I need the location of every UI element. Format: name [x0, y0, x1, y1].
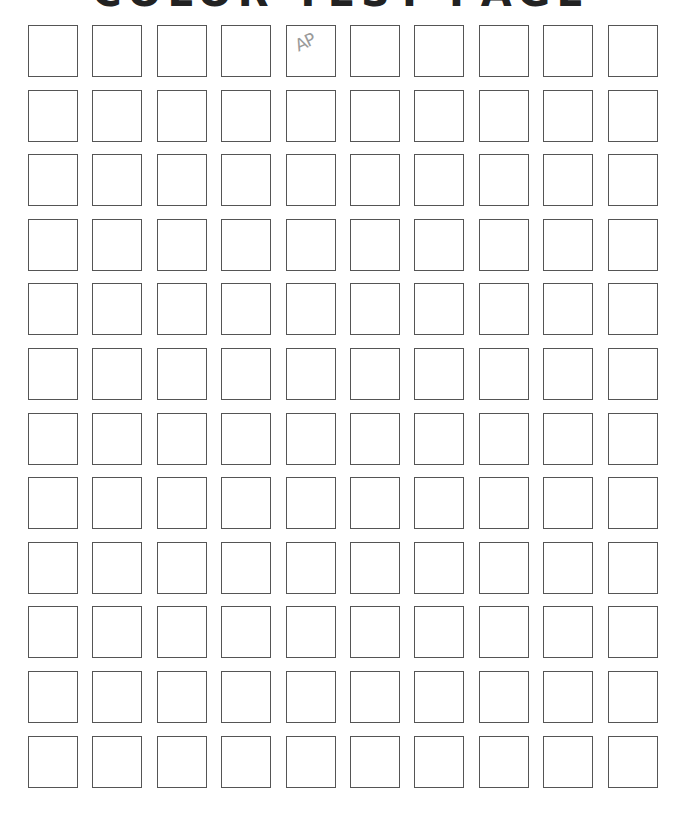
color-swatch-box: [28, 477, 78, 529]
color-swatch-box: [414, 413, 464, 465]
color-swatch-box: [543, 25, 593, 77]
color-swatch-box: [479, 219, 529, 271]
color-swatch-box: [92, 283, 142, 335]
color-swatch-box: [221, 736, 271, 788]
color-swatch-box: [92, 219, 142, 271]
color-swatch-box: AP: [286, 25, 336, 77]
color-swatch-box: [608, 348, 658, 400]
color-swatch-box: [414, 542, 464, 594]
color-swatch-box: [92, 477, 142, 529]
color-swatch-box: [350, 283, 400, 335]
color-swatch-box: [92, 606, 142, 658]
color-swatch-box: [221, 413, 271, 465]
color-swatch-box: [543, 283, 593, 335]
color-swatch-box: [221, 219, 271, 271]
color-swatch-box: [286, 542, 336, 594]
color-swatch-box: [479, 413, 529, 465]
color-swatch-box: [221, 25, 271, 77]
color-swatch-box: [543, 606, 593, 658]
color-swatch-box: [350, 25, 400, 77]
color-swatch-box: [608, 90, 658, 142]
color-swatch-box: [157, 219, 207, 271]
color-swatch-box: [350, 606, 400, 658]
color-swatch-box: [543, 219, 593, 271]
color-swatch-box: [28, 348, 78, 400]
color-swatch-box: [157, 606, 207, 658]
color-swatch-box: [28, 671, 78, 723]
color-swatch-box: [286, 283, 336, 335]
color-swatch-box: [28, 413, 78, 465]
color-swatch-box: [414, 25, 464, 77]
color-swatch-box: [221, 283, 271, 335]
color-swatch-box: [92, 671, 142, 723]
color-swatch-box: [543, 542, 593, 594]
color-swatch-box: [543, 477, 593, 529]
color-swatch-box: [157, 413, 207, 465]
color-swatch-box: [286, 413, 336, 465]
color-swatch-box: [608, 606, 658, 658]
color-swatch-box: [543, 413, 593, 465]
color-swatch-box: [92, 154, 142, 206]
color-swatch-box: [608, 736, 658, 788]
color-swatch-box: [221, 671, 271, 723]
color-swatch-box: [414, 348, 464, 400]
color-swatch-box: [350, 348, 400, 400]
swatch-grid: AP: [0, 0, 682, 819]
color-swatch-box: [28, 219, 78, 271]
color-swatch-box: [608, 477, 658, 529]
color-swatch-box: [157, 542, 207, 594]
color-swatch-box: [414, 283, 464, 335]
color-swatch-box: [92, 90, 142, 142]
color-swatch-box: [157, 671, 207, 723]
color-swatch-box: [543, 671, 593, 723]
color-swatch-box: [543, 90, 593, 142]
color-swatch-box: [608, 413, 658, 465]
color-swatch-box: [350, 542, 400, 594]
color-swatch-box: [479, 671, 529, 723]
color-swatch-box: [92, 413, 142, 465]
color-swatch-box: [479, 25, 529, 77]
color-swatch-box: [157, 283, 207, 335]
color-swatch-box: [157, 90, 207, 142]
color-swatch-box: [286, 90, 336, 142]
color-swatch-box: [414, 736, 464, 788]
color-swatch-box: [479, 542, 529, 594]
color-swatch-box: [350, 413, 400, 465]
color-swatch-box: [286, 606, 336, 658]
color-swatch-box: [350, 154, 400, 206]
color-swatch-box: [608, 542, 658, 594]
color-swatch-box: [28, 90, 78, 142]
color-swatch-box: [221, 542, 271, 594]
color-swatch-box: [157, 736, 207, 788]
color-swatch-box: [157, 348, 207, 400]
color-swatch-box: [28, 606, 78, 658]
color-swatch-box: [414, 90, 464, 142]
color-swatch-box: [608, 25, 658, 77]
color-swatch-box: [28, 736, 78, 788]
color-swatch-box: [414, 219, 464, 271]
color-swatch-box: [92, 542, 142, 594]
color-swatch-box: [543, 348, 593, 400]
color-swatch-box: [479, 348, 529, 400]
color-swatch-box: [608, 283, 658, 335]
color-swatch-box: [92, 25, 142, 77]
color-swatch-box: [28, 542, 78, 594]
color-swatch-box: [608, 671, 658, 723]
color-swatch-box: [221, 90, 271, 142]
handwritten-initials: AP: [291, 29, 317, 56]
color-swatch-box: [479, 736, 529, 788]
color-swatch-box: [414, 154, 464, 206]
color-swatch-box: [479, 154, 529, 206]
color-swatch-box: [92, 736, 142, 788]
color-swatch-box: [221, 154, 271, 206]
color-swatch-box: [543, 736, 593, 788]
color-swatch-box: [350, 90, 400, 142]
color-swatch-box: [28, 154, 78, 206]
color-swatch-box: [157, 25, 207, 77]
color-swatch-box: [221, 606, 271, 658]
color-swatch-box: [92, 348, 142, 400]
color-swatch-box: [350, 671, 400, 723]
color-swatch-box: [608, 219, 658, 271]
color-swatch-box: [543, 154, 593, 206]
color-swatch-box: [479, 90, 529, 142]
